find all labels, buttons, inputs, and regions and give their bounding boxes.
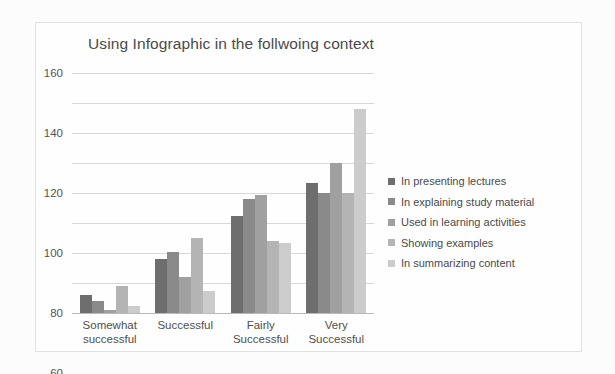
bar	[342, 193, 354, 313]
chart-title: Using Infographic in the follwoing conte…	[36, 35, 426, 53]
bar	[203, 291, 215, 314]
legend-item[interactable]: In explaining study material	[388, 192, 580, 213]
legend-swatch-icon	[388, 239, 395, 246]
x-axis-label-line: Very	[299, 319, 375, 333]
bar	[128, 306, 140, 314]
legend-item-label: In summarizing content	[401, 257, 515, 269]
x-axis-label-line: Successful	[299, 333, 375, 347]
x-axis-label: Somewhatsuccessful	[72, 319, 148, 346]
legend-item[interactable]: Showing examples	[388, 233, 580, 254]
y-axis-tick-label: 100	[44, 247, 72, 259]
bar	[92, 301, 104, 313]
bar	[306, 183, 318, 314]
y-axis-tick-label: 140	[44, 127, 72, 139]
legend-swatch-icon	[388, 260, 395, 267]
legend-swatch-icon	[388, 198, 395, 205]
bar	[330, 163, 342, 313]
chart-frame: Using Infographic in the follwoing conte…	[35, 22, 582, 352]
y-axis-tick-label: 120	[44, 187, 72, 199]
plot-area: 020406080100120140160	[72, 73, 374, 313]
x-axis-label-line: Successful	[223, 333, 299, 347]
page-background: Using Infographic in the follwoing conte…	[0, 0, 615, 374]
bar	[318, 193, 330, 313]
bar	[104, 310, 116, 313]
bar	[116, 286, 128, 313]
bar-group	[148, 73, 224, 313]
bar-group	[223, 73, 299, 313]
bar	[231, 216, 243, 314]
x-axis-labels: SomewhatsuccessfulSuccessfulFairlySucces…	[72, 319, 374, 346]
y-axis-tick-label: 160	[44, 67, 72, 79]
bar-groups	[72, 73, 374, 313]
legend-item[interactable]: In presenting lectures	[388, 171, 580, 192]
bar	[255, 195, 267, 314]
legend-item-label: In presenting lectures	[401, 175, 506, 187]
x-axis-label: FairlySuccessful	[223, 319, 299, 346]
x-axis-label: Successful	[148, 319, 224, 346]
bar-group	[72, 73, 148, 313]
axis-baseline: 0	[72, 313, 374, 314]
legend: In presenting lecturesIn explaining stud…	[388, 171, 580, 274]
legend-item-label: Showing examples	[401, 237, 493, 249]
bar	[243, 199, 255, 313]
legend-item[interactable]: Used in learning activities	[388, 212, 580, 233]
bar	[80, 295, 92, 313]
legend-item-label: In explaining study material	[401, 196, 534, 208]
bar-group	[299, 73, 375, 313]
bar	[155, 259, 167, 313]
x-axis-label-line: Somewhat	[72, 319, 148, 333]
y-axis-tick-label: 60	[50, 367, 72, 374]
x-axis-label-line: Successful	[148, 319, 224, 333]
bar	[191, 238, 203, 313]
bar	[279, 243, 291, 314]
legend-swatch-icon	[388, 178, 395, 185]
x-axis-label-line: successful	[72, 333, 148, 347]
bar	[167, 252, 179, 314]
x-axis-label: VerySuccessful	[299, 319, 375, 346]
bar	[267, 241, 279, 313]
bar	[354, 109, 366, 313]
x-axis-label-line: Fairly	[223, 319, 299, 333]
y-axis-tick-label: 80	[50, 307, 72, 319]
legend-item[interactable]: In summarizing content	[388, 253, 580, 274]
legend-swatch-icon	[388, 219, 395, 226]
legend-item-label: Used in learning activities	[401, 216, 526, 228]
bar	[179, 277, 191, 313]
